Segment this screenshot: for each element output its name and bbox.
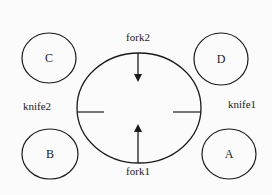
philosopher-a-label: A: [225, 147, 234, 161]
philosopher-d: D: [194, 33, 248, 85]
fork2: fork2: [126, 31, 150, 78]
philosopher-b-label: B: [46, 147, 54, 161]
table-ellipse: [77, 53, 201, 163]
dining-diagram: C D B A fork2 fork1: [0, 0, 272, 195]
knife2: knife2: [23, 100, 104, 112]
philosopher-a: A: [202, 129, 256, 179]
philosopher-c-label: C: [45, 51, 53, 65]
fork1-label: fork1: [126, 165, 150, 177]
philosopher-c: C: [22, 33, 76, 83]
fork1: fork1: [126, 128, 150, 177]
fork2-label: fork2: [126, 31, 150, 43]
diagram-svg: C D B A fork2 fork1: [0, 0, 272, 195]
knife1-label: knife1: [228, 98, 256, 110]
philosopher-d-label: D: [217, 52, 226, 66]
knife2-label: knife2: [23, 100, 51, 112]
knife1: knife1: [173, 98, 256, 112]
philosopher-b: B: [22, 129, 78, 179]
